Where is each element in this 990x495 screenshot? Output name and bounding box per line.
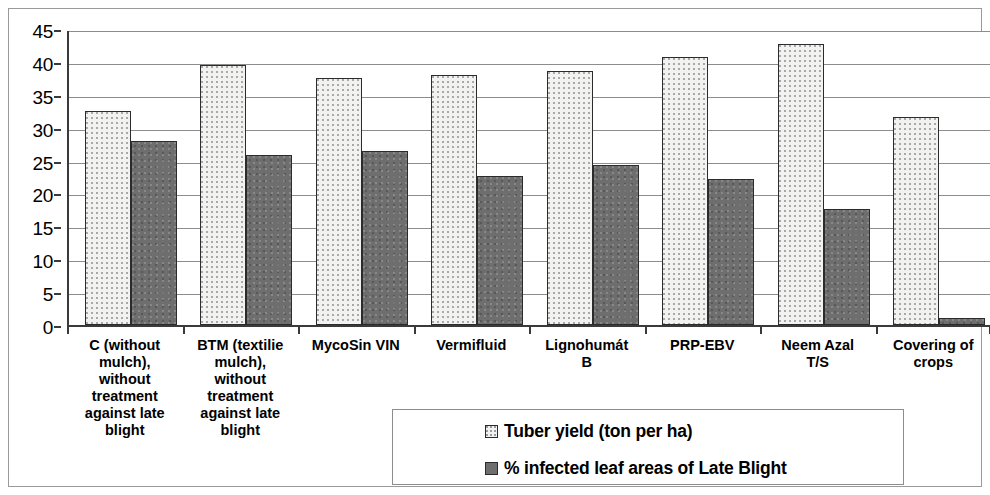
y-axis-tick-label: 45 [32,22,53,41]
bars-layer [69,31,990,325]
x-axis-category-label-5: PRP-EBV [645,337,761,354]
bar-series-yield-3 [431,75,477,325]
bar-series-infected-0 [131,141,177,325]
y-axis-tick-mark [54,96,61,98]
bar-series-yield-5 [662,57,708,325]
y-axis: 051015202530354045 [17,31,61,327]
y-axis-tick-label: 5 [43,285,53,304]
y-axis-tick-label: 40 [32,54,53,73]
legend-label-infected-leaf: % infected leaf areas of Late Blight [504,458,787,479]
y-axis-tick-label: 0 [43,318,53,337]
legend-swatch-icon-infected-leaf [485,462,498,475]
x-axis-category-label-4: LignohumátB [529,337,645,371]
legend-entry-tuber-yield: Tuber yield (ton per ha) [393,416,903,447]
x-axis-category-label-2: MycoSin VIN [298,337,414,354]
y-axis-tick-mark [54,30,61,32]
bar-series-infected-7 [939,318,985,325]
x-axis-category-label-7: Covering ofcrops [876,337,990,371]
bar-series-yield-1 [200,65,246,325]
bar-series-yield-4 [547,71,593,325]
plot-area [67,31,990,327]
bar-series-infected-4 [593,165,639,325]
bar-series-infected-3 [477,176,523,325]
x-axis-tick-mark [760,327,762,334]
y-axis-tick-mark [54,227,61,229]
x-axis-category-label-0: C (withoutmulch),withouttreatmentagainst… [67,337,183,439]
x-axis-tick-mark [876,327,878,334]
bar-series-yield-7 [893,117,939,326]
legend-swatch-icon-tuber-yield [485,425,498,438]
x-axis-tick-mark [529,327,531,334]
y-axis-tick-label: 15 [32,219,53,238]
x-axis-category-label-1: BTM (textiliemulch),withouttreatmentagai… [183,337,299,439]
y-axis-tick-mark [54,194,61,196]
bar-series-infected-2 [362,151,408,325]
y-axis-tick-mark [54,326,61,328]
x-axis-category-label-3: Vermifluid [414,337,530,354]
y-axis-tick-mark [54,162,61,164]
y-axis-tick-label: 25 [32,153,53,172]
y-axis-tick-label: 30 [32,120,53,139]
y-axis-tick-mark [54,293,61,295]
y-axis-tick-label: 20 [32,186,53,205]
bar-series-infected-1 [246,155,292,325]
y-axis-tick-mark [54,63,61,65]
x-axis-tick-mark [645,327,647,334]
bar-series-yield-6 [778,44,824,325]
chart-legend: Tuber yield (ton per ha) % infected leaf… [392,409,904,485]
bar-series-infected-6 [824,209,870,325]
x-axis-ticks [67,327,990,335]
legend-entry-infected-leaf: % infected leaf areas of Late Blight [393,453,903,484]
bar-series-yield-2 [316,78,362,325]
x-axis-tick-mark [183,327,185,334]
bar-series-infected-5 [708,179,754,325]
x-axis-category-label-6: Neem AzalT/S [760,337,876,371]
chart-frame: 051015202530354045 C (withoutmulch),with… [8,8,982,487]
y-axis-tick-label: 10 [32,252,53,271]
y-axis-tick-label: 35 [32,87,53,106]
y-axis-tick-mark [54,260,61,262]
x-axis-tick-mark [67,327,69,334]
chart-screenshot: 051015202530354045 C (withoutmulch),with… [0,0,990,495]
x-axis-tick-mark [414,327,416,334]
legend-label-tuber-yield: Tuber yield (ton per ha) [504,421,692,442]
x-axis-tick-mark [298,327,300,334]
y-axis-tick-mark [54,129,61,131]
bar-series-yield-0 [85,111,131,325]
